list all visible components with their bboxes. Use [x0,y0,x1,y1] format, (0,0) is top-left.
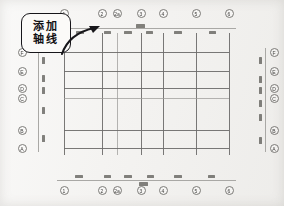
dimension-text-left-1 [42,57,45,64]
axis-marker-bottom-5[interactable]: 5 [192,186,201,195]
dimension-text-right-4 [259,100,262,107]
dimension-text-top-6 [209,31,216,34]
dimension-line-left [38,48,39,152]
dimension-text-top-4 [146,31,153,34]
axis-marker-right-C[interactable]: C [270,94,279,103]
axis-marker-bottom-2[interactable]: 2 [98,186,107,195]
dimension-text-top-3 [124,31,132,34]
axis-marker-top-6[interactable]: 6 [225,9,234,18]
axis-marker-top-2a[interactable]: 2a [113,9,122,18]
grid-hline-D [64,88,229,89]
axis-marker-right-B[interactable]: B [270,126,279,135]
dimension-line-bottom [57,180,236,181]
dimension-text-bottom-1 [75,175,83,178]
axis-marker-right-A[interactable]: A [270,144,279,153]
dimension-text-top-overall [136,24,145,28]
dimension-text-left-2 [42,75,45,82]
axis-marker-right-D[interactable]: D [270,84,279,93]
dimension-text-bottom-4 [147,175,154,178]
axis-marker-left-B[interactable]: B [18,126,27,135]
axis-marker-left-D[interactable]: D [18,84,27,93]
axis-marker-left-E[interactable]: E [18,67,27,76]
dimension-text-right-2 [259,76,262,83]
grid-hline-A [64,148,229,149]
dimension-text-right-5 [259,114,262,121]
grid-vline-6 [229,33,230,155]
axis-marker-top-4[interactable]: 4 [159,9,168,18]
axis-marker-right-E[interactable]: E [270,67,279,76]
axis-marker-right-F[interactable]: F [270,48,279,57]
dimension-text-right-6 [259,137,262,144]
grid-hline-E [64,71,229,72]
grid-hline-B [64,130,229,131]
dimension-text-left-3 [42,87,45,94]
dimension-text-right-3 [259,87,262,94]
callout-line-2: 轴线 [33,34,59,46]
dimension-text-bottom-5 [174,175,182,178]
callout-line-1: 添加 [33,21,59,33]
axis-marker-bottom-6[interactable]: 6 [225,186,234,195]
axis-marker-top-2[interactable]: 2 [98,9,107,18]
dimension-text-bottom-3 [124,175,132,178]
axis-marker-bottom-3[interactable]: 3 [137,186,146,195]
axis-marker-left-C[interactable]: C [18,94,27,103]
grid-hline-C [64,98,229,99]
callout-arrow-icon [60,20,108,56]
dimension-line-right [265,48,266,152]
axis-marker-bottom-2a[interactable]: 2a [113,186,122,195]
dimension-text-left-5 [42,135,45,142]
drawing-stage: 122a3456122a3456FEDCBAFEDCBA 添加 轴线 [0,0,284,206]
dimension-text-top-5 [174,31,182,34]
axis-marker-left-A[interactable]: A [18,144,27,153]
axis-marker-top-5[interactable]: 5 [192,9,201,18]
dimension-text-right-1 [259,57,262,64]
axis-marker-bottom-1[interactable]: 1 [60,186,69,195]
dimension-text-left-4 [42,107,45,114]
dimension-text-bottom-2 [104,175,111,178]
dimension-text-bottom-6 [208,175,215,178]
axis-marker-top-3[interactable]: 3 [137,9,146,18]
axis-marker-bottom-4[interactable]: 4 [159,186,168,195]
